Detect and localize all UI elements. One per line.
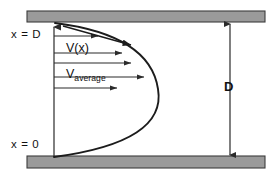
top-plate (27, 11, 265, 22)
label-average-velocity: Vaverage (66, 68, 106, 81)
label-gap-dimension-d: D (224, 80, 233, 93)
bottom-plate (27, 156, 265, 168)
label-x-equals-zero: x = 0 (11, 139, 39, 151)
label-average-velocity-subscript: average (74, 73, 105, 83)
diagram-canvas (0, 0, 275, 179)
velocity-profile-figure: x = D x = 0 V(x) Vaverage D (0, 0, 275, 179)
label-x-equals-d: x = D (11, 29, 41, 41)
label-local-velocity: V(x) (66, 42, 89, 55)
